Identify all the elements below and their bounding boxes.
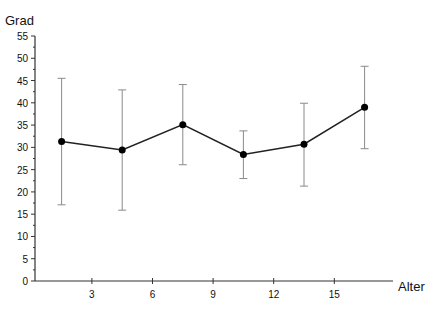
x-tick-label: 3 (89, 289, 95, 300)
y-tick-label: 50 (17, 53, 29, 64)
y-tick-label: 20 (17, 187, 29, 198)
y-tick-label: 35 (17, 120, 29, 131)
chart-canvas: Grad 0510152025303540455055 3691215 Alte… (0, 0, 438, 309)
data-markers (58, 104, 368, 158)
y-axis: 0510152025303540455055 (17, 31, 35, 287)
data-point-marker (301, 141, 308, 148)
data-point-marker (179, 121, 186, 128)
x-tick-label: 15 (329, 289, 341, 300)
data-point-marker (58, 138, 65, 145)
y-axis-title: Grad (5, 13, 34, 28)
y-tick-label: 40 (17, 98, 29, 109)
series-line (62, 107, 365, 154)
y-tick-label: 25 (17, 165, 29, 176)
data-point-marker (361, 104, 368, 111)
y-tick-label: 0 (22, 276, 28, 287)
y-tick-label: 55 (17, 31, 29, 42)
data-point-marker (119, 147, 126, 154)
x-axis: 3691215 (35, 278, 393, 300)
y-tick-label: 30 (17, 142, 29, 153)
y-tick-label: 10 (17, 231, 29, 242)
x-tick-label: 9 (210, 289, 216, 300)
error-bars (58, 66, 369, 210)
y-tick-label: 15 (17, 209, 29, 220)
x-axis-title: Alter (398, 279, 425, 294)
y-tick-label: 45 (17, 76, 29, 87)
x-tick-label: 6 (150, 289, 156, 300)
x-tick-label: 12 (268, 289, 280, 300)
y-tick-label: 5 (22, 254, 28, 265)
data-point-marker (240, 151, 247, 158)
